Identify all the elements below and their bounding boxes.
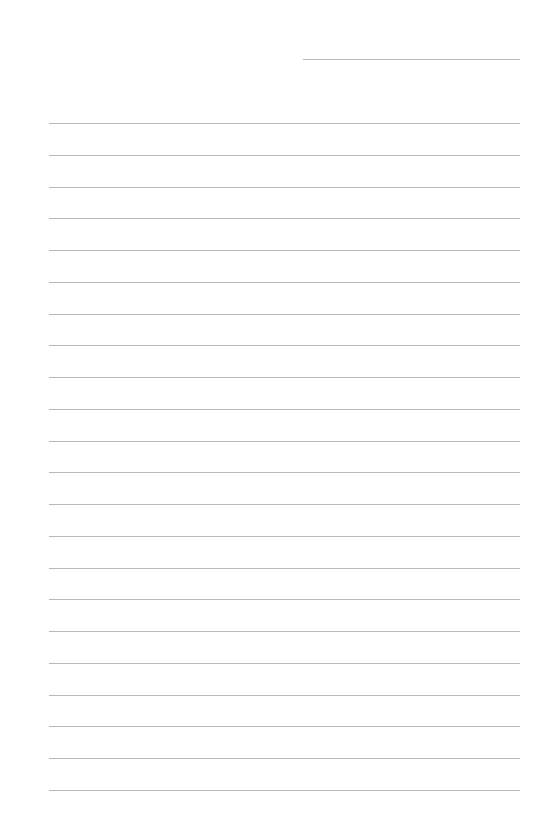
ruled-line — [49, 790, 520, 791]
lined-page — [0, 0, 533, 830]
ruled-line — [49, 218, 520, 219]
ruled-line — [49, 155, 520, 156]
ruled-line — [49, 758, 520, 759]
ruled-line — [49, 123, 520, 124]
ruled-line — [49, 441, 520, 442]
ruled-line — [49, 631, 520, 632]
ruled-line — [49, 250, 520, 251]
ruled-line — [49, 314, 520, 315]
ruled-line — [49, 472, 520, 473]
ruled-line — [49, 663, 520, 664]
ruled-line — [49, 599, 520, 600]
ruled-line — [49, 695, 520, 696]
ruled-line — [49, 726, 520, 727]
ruled-line — [49, 409, 520, 410]
ruled-line — [49, 377, 520, 378]
ruled-line — [49, 536, 520, 537]
ruled-line — [49, 282, 520, 283]
ruled-line — [49, 345, 520, 346]
title-line — [303, 59, 520, 60]
ruled-line — [49, 568, 520, 569]
ruled-line — [49, 504, 520, 505]
ruled-line — [49, 187, 520, 188]
